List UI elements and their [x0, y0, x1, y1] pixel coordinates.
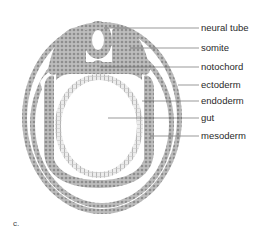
label-mesoderm: mesoderm — [201, 130, 246, 141]
label-neural-tube: neural tube — [201, 22, 249, 33]
somite-left — [48, 27, 84, 74]
somite-right — [114, 27, 150, 74]
label-ectoderm: ectoderm — [201, 79, 241, 90]
label-endoderm: endoderm — [201, 95, 244, 106]
label-notochord: notochord — [201, 61, 243, 72]
neural-tube — [84, 21, 112, 59]
notochord — [92, 60, 104, 72]
endoderm-gut-tube — [55, 74, 143, 178]
panel-label: c. — [13, 219, 19, 228]
label-somite: somite — [201, 42, 229, 53]
label-gut: gut — [201, 112, 214, 123]
embryo-cross-section-diagram — [0, 0, 262, 232]
